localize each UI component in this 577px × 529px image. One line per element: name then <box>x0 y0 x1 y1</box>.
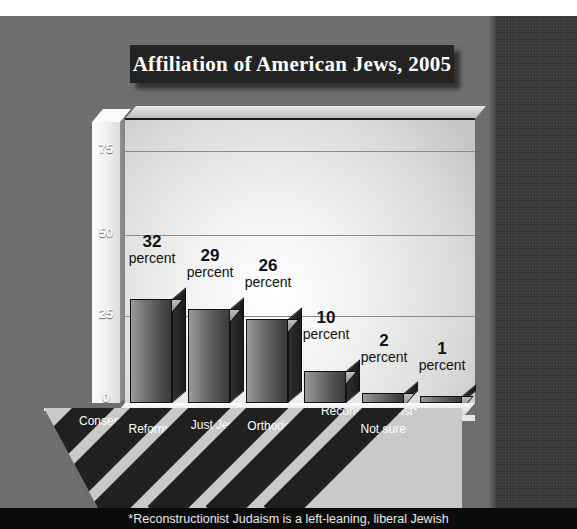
page-title: Affiliation of American Jews, 2005 <box>133 52 452 77</box>
y-tick-25: 25 <box>92 306 120 320</box>
bar-chart: Percentage of Respondents 75 50 25 0 32 … <box>78 100 490 492</box>
bar-value-unit: percent <box>223 275 313 290</box>
bar-just-jewish <box>246 100 288 403</box>
bar-value-unit: percent <box>397 358 487 373</box>
bar-front-face <box>362 393 404 403</box>
bar-front-face <box>304 371 346 403</box>
footnote-text: *Reconstructionist Judaism is a left-lea… <box>128 512 448 526</box>
category-label-not-sure: Not sure <box>361 422 406 436</box>
bar-value-not-sure: 1 percent <box>397 340 487 373</box>
chart-screenshot: Affiliation of American Jews, 2005 Perce… <box>0 0 577 529</box>
bar-front-face <box>420 396 462 403</box>
category-label-plate: Conservative Reform Just Jewish Orthodox… <box>44 408 462 512</box>
bar-value-number: 1 <box>397 340 487 358</box>
top-white-margin <box>0 0 577 16</box>
bar-value-just-jewish: 26 percent <box>223 257 313 290</box>
bar-front-face <box>188 309 230 403</box>
title-plaque: Affiliation of American Jews, 2005 <box>130 45 454 83</box>
y-tick-0: 0 <box>92 390 120 404</box>
right-dark-band <box>496 16 577 509</box>
y-tick-75: 75 <box>92 141 120 155</box>
bar-value-number: 26 <box>223 257 313 275</box>
bar-front-face <box>130 299 172 403</box>
footnote-bar: *Reconstructionist Judaism is a left-lea… <box>0 508 577 529</box>
bar-value-number: 10 <box>281 309 371 327</box>
